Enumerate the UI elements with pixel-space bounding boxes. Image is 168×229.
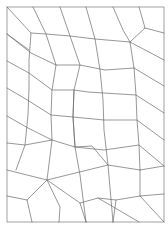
mesh-edge: [7, 88, 164, 140]
mesh-edge: [130, 42, 164, 60]
mesh-edge: [7, 34, 56, 65]
mesh-edge: [7, 34, 29, 50]
mesh-diagram: [0, 0, 168, 229]
mesh-svg: [0, 0, 168, 229]
mesh-edge: [113, 200, 116, 222]
mesh-edge: [140, 194, 164, 196]
mesh-edge: [56, 65, 134, 70]
mesh-edge: [7, 116, 164, 166]
mesh-edge: [7, 196, 27, 200]
mesh-edge: [7, 165, 140, 180]
mesh-edge: [140, 166, 164, 170]
mesh-edge: [7, 140, 52, 145]
mesh-edge: [98, 198, 139, 222]
mesh-edge: [7, 7, 31, 170]
mesh-edge: [47, 180, 60, 222]
mesh-edge: [47, 180, 140, 203]
mesh-edge: [134, 68, 164, 86]
mesh-edges: [7, 7, 164, 222]
mesh-edge: [130, 7, 145, 42]
mesh-edge: [113, 7, 164, 222]
mesh-edge: [7, 61, 164, 113]
mesh-edge: [145, 28, 164, 33]
